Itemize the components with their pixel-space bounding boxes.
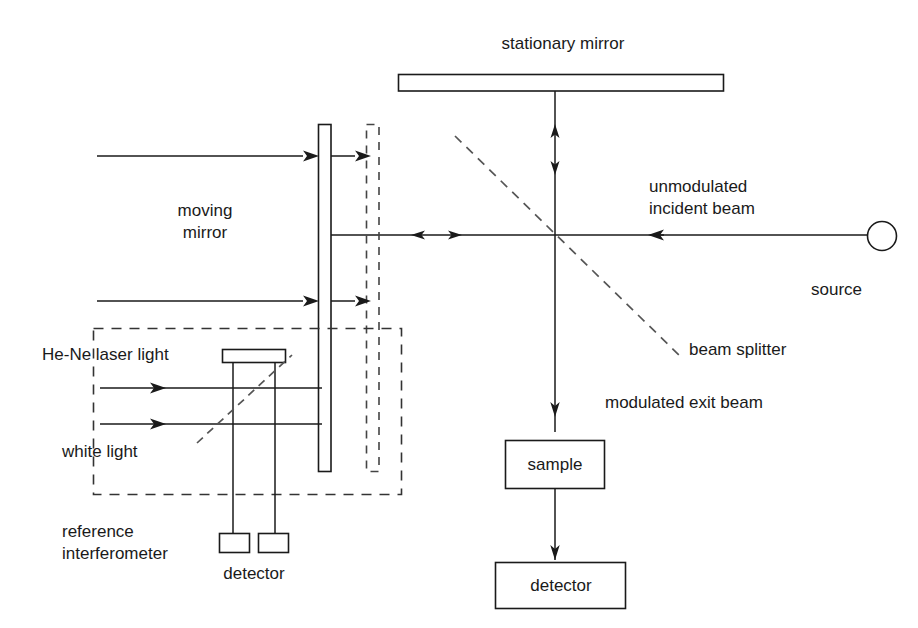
moving-mirror-lower-drive-arrowhead: [303, 296, 319, 307]
reference-detector-left: [220, 534, 250, 553]
label-moving-mirror-line1: moving: [150, 200, 260, 221]
moving-mirror-displaced-outline: [367, 125, 380, 472]
label-beam-splitter: beam splitter: [689, 339, 786, 360]
label-detector-reference: detector: [198, 563, 310, 584]
label-source: source: [811, 279, 862, 300]
label-detector-main: detector: [496, 575, 626, 596]
moving-mirror: [319, 125, 332, 472]
moving-mirror-upper-drive-arrowhead: [303, 151, 319, 162]
reference-mirror: [223, 350, 286, 363]
reference-beam-splitter-line: [197, 355, 292, 443]
label-modulated-exit-beam: modulated exit beam: [605, 392, 763, 413]
label-white-light: white light: [62, 441, 138, 462]
moving-mirror-upper-shift-arrowhead: [355, 151, 371, 162]
source-lamp-icon: [868, 222, 897, 251]
label-reference-interferometer-line2: interferometer: [62, 543, 168, 564]
label-sample: sample: [505, 454, 605, 475]
label-unmodulated-incident-beam-line1: unmodulated: [649, 176, 747, 197]
diagram-canvas: stationary mirror moving mirror unmodula…: [0, 0, 918, 628]
interferometer-schematic: [0, 0, 918, 628]
reference-detector-right: [259, 534, 289, 553]
moving-mirror-lower-shift-arrowhead: [355, 296, 371, 307]
label-reference-interferometer-line1: reference: [62, 521, 134, 542]
beam-splitter-line: [455, 136, 681, 357]
label-he-ne-laser-light: He-Ne laser light: [42, 344, 169, 365]
label-stationary-mirror: stationary mirror: [480, 33, 646, 54]
label-moving-mirror-line2: mirror: [150, 222, 260, 243]
stationary-mirror: [399, 75, 724, 92]
label-unmodulated-incident-beam-line2: incident beam: [649, 198, 755, 219]
